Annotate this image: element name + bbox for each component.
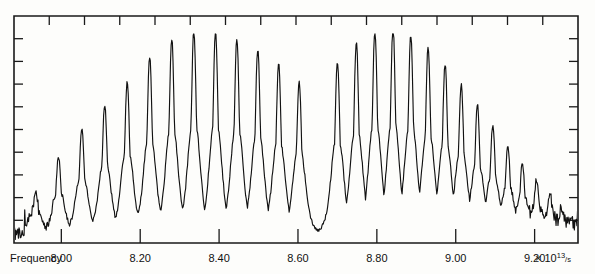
x-axis-title: Frequency xyxy=(10,252,62,264)
x-tick-label: 9.00 xyxy=(445,252,466,264)
x-tick-label: 8.80 xyxy=(366,252,387,264)
figure-root: 8.008.208.408.608.809.009.20 Frequency ×… xyxy=(0,0,595,274)
units-exponent: 13 xyxy=(557,251,565,260)
x-tick-label: 8.40 xyxy=(208,252,229,264)
units-mantissa: × 10 xyxy=(535,252,557,264)
spectrum-chart: 8.008.208.408.608.809.009.20 Frequency ×… xyxy=(0,0,595,274)
units-denominator: /s xyxy=(565,255,571,264)
spectrum-plot-container: 8.008.208.408.608.809.009.20 Frequency ×… xyxy=(0,0,595,274)
x-tick-label: 8.60 xyxy=(287,252,308,264)
x-tick-label: 8.20 xyxy=(129,252,150,264)
